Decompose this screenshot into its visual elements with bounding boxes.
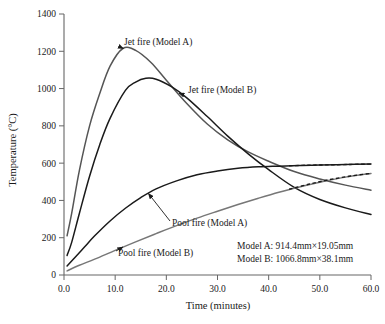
note-model-a: Model A: 914.4mm×19.05mm — [237, 241, 354, 251]
y-tick-label: 800 — [42, 121, 57, 131]
series-group — [67, 47, 371, 271]
annotation-label-jet-b: Jet fire (Model B) — [188, 85, 256, 96]
annotation-label-pool-a: Pool fire (Model A) — [172, 218, 247, 229]
y-tick-label: 400 — [42, 196, 57, 206]
y-tick-label: 600 — [42, 159, 57, 169]
series-line — [67, 47, 371, 236]
x-axis-title: Time (minutes) — [186, 300, 251, 312]
y-tick-label: 200 — [42, 233, 57, 243]
dashed-extension-group — [289, 164, 371, 189]
y-tick-group: 0200400600800100012001400 — [37, 9, 64, 280]
x-tick-label: 50.0 — [312, 284, 329, 294]
x-tick-group: 0.010.020.030.040.050.060.0 — [58, 275, 380, 294]
x-tick-label: 10.0 — [107, 284, 124, 294]
x-tick-label: 20.0 — [158, 284, 175, 294]
series-line — [67, 78, 371, 255]
x-tick-label: 0.0 — [58, 284, 70, 294]
annotation-label-jet-a: Jet fire (Model A) — [124, 37, 192, 48]
chart-svg: 0200400600800100012001400 0.010.020.030.… — [0, 0, 385, 324]
y-tick-label: 0 — [51, 270, 56, 280]
x-tick-label: 60.0 — [363, 284, 380, 294]
y-tick-label: 1400 — [37, 9, 56, 19]
y-tick-label: 1000 — [37, 84, 56, 94]
y-tick-label: 1200 — [37, 47, 56, 57]
annotation-group: Jet fire (Model A)Jet fire (Model B)Pool… — [116, 37, 256, 259]
temperature-time-chart: 0200400600800100012001400 0.010.020.030.… — [0, 0, 385, 324]
x-tick-label: 30.0 — [209, 284, 226, 294]
annotation-label-pool-b: Pool fire (Model B) — [118, 248, 193, 259]
note-model-b: Model B: 1066.8mm×38.1mm — [237, 254, 354, 264]
x-tick-label: 40.0 — [260, 284, 277, 294]
axes-group — [64, 14, 371, 275]
y-axis-title: Temperature (°C) — [7, 113, 19, 187]
annotation-arrow-pool-a — [148, 194, 170, 221]
